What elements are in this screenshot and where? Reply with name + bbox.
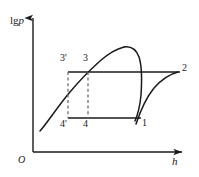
lg-p-h-diagram: lgp h O 3' 3 4' 4 1 2 <box>0 0 199 177</box>
point-label-3-prime: 3' <box>60 53 67 63</box>
point-label-4: 4 <box>83 119 88 129</box>
point-label-3: 3 <box>83 53 88 63</box>
y-axis-label-variable: p <box>19 14 25 26</box>
point-label-1: 1 <box>142 118 147 128</box>
x-axis-label: h <box>172 156 178 167</box>
origin-label: O <box>18 155 25 165</box>
point-label-2: 2 <box>182 63 187 73</box>
diagram-canvas <box>0 0 199 177</box>
y-axis-label: lgp <box>10 15 24 26</box>
y-axis-label-prefix: lg <box>10 14 19 26</box>
point-label-4-prime: 4' <box>60 119 67 129</box>
saturation-dome-right-branch <box>124 47 142 121</box>
